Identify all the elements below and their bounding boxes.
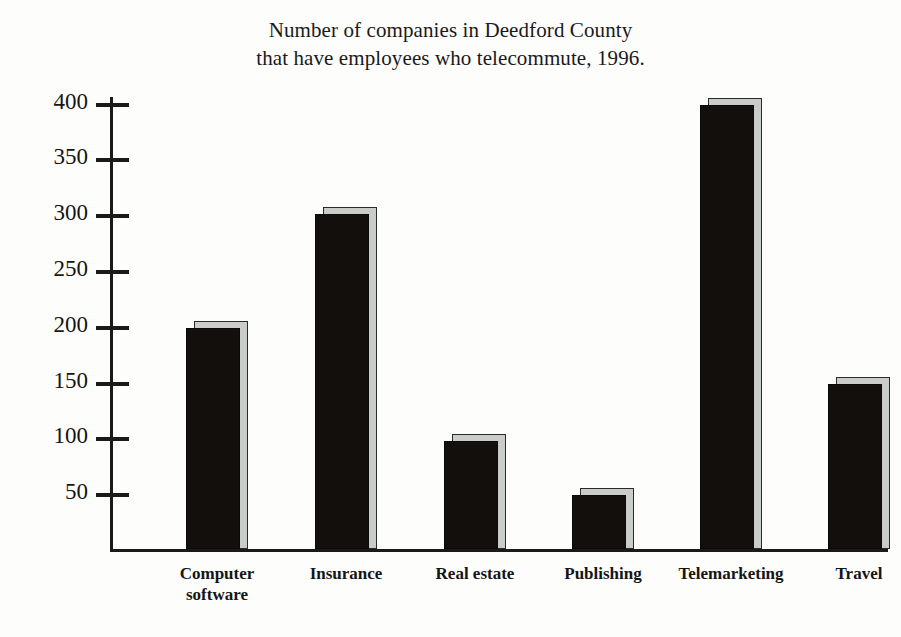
y-tick-mark bbox=[96, 214, 129, 218]
y-tick-label: 150 bbox=[54, 369, 89, 392]
bar-face bbox=[315, 214, 369, 549]
plot-area: 50100150200250300350400 bbox=[110, 97, 888, 552]
y-tick-label: 100 bbox=[54, 424, 89, 447]
y-tick-label: 400 bbox=[54, 90, 89, 113]
chart-title-line-1: Number of companies in Deedford County bbox=[0, 16, 901, 44]
bar-face bbox=[186, 328, 240, 549]
y-tick-label: 300 bbox=[54, 201, 89, 224]
category-label-travel: Travel bbox=[779, 563, 901, 584]
bar-travel bbox=[828, 97, 890, 549]
y-axis-line bbox=[110, 97, 113, 552]
category-label-line: software bbox=[137, 584, 297, 605]
bar-real-estate bbox=[444, 97, 506, 549]
bar-computer-software bbox=[186, 97, 248, 549]
bar-face bbox=[572, 495, 626, 549]
y-tick-mark bbox=[96, 382, 129, 386]
bar-telemarketing bbox=[700, 97, 762, 549]
chart-figure: Number of companies in Deedford County t… bbox=[0, 0, 901, 637]
y-tick-label: 350 bbox=[54, 145, 89, 168]
y-tick-mark bbox=[96, 437, 129, 441]
bar-face bbox=[444, 441, 498, 549]
chart-title: Number of companies in Deedford County t… bbox=[0, 16, 901, 72]
y-tick-mark bbox=[96, 270, 129, 274]
bar-insurance bbox=[315, 97, 377, 549]
y-tick-mark bbox=[96, 158, 129, 162]
category-label-line: Travel bbox=[779, 563, 901, 584]
x-axis-line bbox=[110, 549, 888, 552]
y-tick-label: 50 bbox=[65, 480, 88, 503]
y-tick-label: 200 bbox=[54, 313, 89, 336]
bar-face bbox=[700, 105, 754, 549]
chart-title-line-2: that have employees who telecommute, 199… bbox=[0, 44, 901, 72]
y-tick-mark bbox=[96, 103, 129, 107]
y-tick-mark bbox=[96, 326, 129, 330]
bar-publishing bbox=[572, 97, 634, 549]
y-tick-mark bbox=[96, 493, 129, 497]
y-tick-label: 250 bbox=[54, 257, 89, 280]
bar-face bbox=[828, 384, 882, 549]
